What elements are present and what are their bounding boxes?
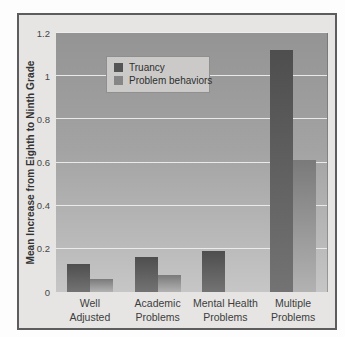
y-tick-label: 0.4 bbox=[37, 201, 50, 211]
x-category-label: WellAdjusted bbox=[56, 297, 124, 324]
bar-truancy bbox=[202, 251, 225, 292]
bar-group bbox=[259, 33, 327, 292]
legend-label: Problem behaviors bbox=[129, 75, 212, 86]
legend: TruancyProblem behaviors bbox=[106, 56, 210, 93]
bar-truancy bbox=[135, 257, 158, 292]
legend-swatch-icon bbox=[114, 63, 123, 72]
bar-problem-behaviors bbox=[158, 275, 181, 292]
y-tick-label: 1.2 bbox=[37, 28, 50, 38]
bar-problem-behaviors bbox=[293, 160, 316, 292]
figure-frame: Mean Increase from Eighth to Ninth Grade… bbox=[17, 13, 337, 330]
y-tick-label: 0 bbox=[45, 287, 50, 297]
bar-truancy bbox=[67, 264, 90, 292]
legend-item: Truancy bbox=[114, 61, 203, 74]
legend-label: Truancy bbox=[129, 62, 165, 73]
x-category-label: MultipleProblems bbox=[259, 297, 327, 324]
x-axis-labels: WellAdjustedAcademicProblemsMental Healt… bbox=[56, 297, 327, 324]
y-tick-label: 1 bbox=[45, 71, 50, 81]
bar-problem-behaviors bbox=[90, 279, 113, 292]
y-tick-label: 0.6 bbox=[37, 158, 50, 168]
y-tick-label: 0.2 bbox=[37, 244, 50, 254]
y-tick-label: 0.8 bbox=[37, 115, 50, 125]
legend-swatch-icon bbox=[114, 76, 123, 85]
x-category-label: AcademicProblems bbox=[124, 297, 192, 324]
x-category-label: Mental HealthProblems bbox=[192, 297, 260, 324]
plot-area: TruancyProblem behaviors bbox=[56, 33, 328, 292]
y-axis-ticks: 00.20.40.60.811.2 bbox=[19, 33, 54, 292]
bar-truancy bbox=[270, 50, 293, 292]
legend-item: Problem behaviors bbox=[114, 74, 203, 87]
